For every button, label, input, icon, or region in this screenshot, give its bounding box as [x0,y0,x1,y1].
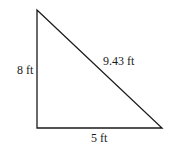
right-triangle [37,10,162,128]
vertical-side-label: 8 ft [17,63,34,77]
triangle-figure: 8 ft 5 ft 9.43 ft [0,0,170,152]
hypotenuse-label: 9.43 ft [103,54,135,68]
diagram-canvas: 8 ft 5 ft 9.43 ft [0,0,170,152]
horizontal-side-label: 5 ft [91,131,108,145]
